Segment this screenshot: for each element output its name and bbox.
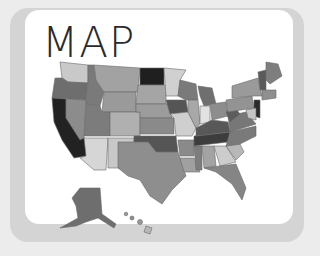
- state-hawaii-big: [144, 226, 152, 234]
- state-arkansas: [178, 140, 194, 156]
- us-map: [0, 0, 320, 256]
- state-indiana: [200, 106, 210, 124]
- state-iowa: [166, 100, 188, 114]
- state-maine: [266, 62, 282, 84]
- state-kansas: [140, 118, 174, 134]
- state-wisconsin: [178, 80, 198, 100]
- state-alabama: [202, 146, 216, 168]
- state-new-york: [232, 78, 262, 98]
- state-north-dakota: [140, 68, 164, 85]
- state-south-dakota: [136, 85, 166, 104]
- state-hawaii-maui: [138, 220, 143, 225]
- state-florida: [204, 164, 246, 200]
- state-nebraska: [136, 104, 172, 118]
- state-wyoming: [102, 92, 136, 112]
- state-michigan: [198, 86, 216, 106]
- state-hawaii-oahu: [130, 216, 134, 220]
- state-ohio: [210, 102, 228, 120]
- state-alaska: [60, 188, 116, 228]
- state-colorado: [110, 112, 140, 136]
- state-mass-ct-ri: [262, 90, 276, 100]
- state-hawaii-kauai: [124, 212, 128, 216]
